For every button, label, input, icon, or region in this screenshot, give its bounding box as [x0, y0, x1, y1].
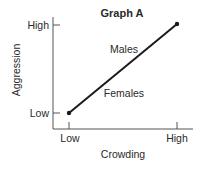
data-point-high — [175, 22, 179, 26]
data-line — [69, 24, 177, 113]
x-tick-label-low: Low — [60, 132, 80, 144]
x-axis-label: Crowding — [101, 148, 146, 160]
x-tick-label-high: High — [166, 132, 188, 144]
y-tick-label-high: High — [27, 19, 49, 31]
y-tick-label-low: Low — [30, 107, 50, 119]
graph-a-chart: Graph A High Low Low High Crowding Aggre… — [0, 0, 203, 184]
chart-title: Graph A — [101, 7, 144, 19]
y-axis-label: Aggression — [10, 44, 22, 97]
annotation-females: Females — [104, 87, 144, 99]
annotation-males: Males — [110, 43, 138, 55]
data-point-low — [67, 111, 71, 115]
